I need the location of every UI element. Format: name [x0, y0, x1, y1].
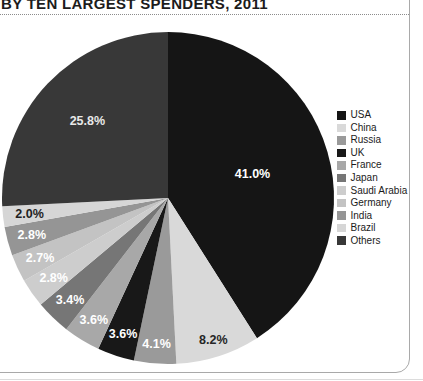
legend-swatch-germany [337, 199, 346, 208]
legend-label-others: Others [351, 236, 381, 246]
legend-swatch-brazil [337, 224, 346, 233]
legend-item-uk: UK [337, 147, 407, 160]
pie-slice-label-france: 3.6% [80, 313, 109, 327]
legend-swatch-china [337, 124, 346, 133]
legend-item-russia: Russia [337, 134, 407, 147]
pie-slice-label-saudi-arabia: 2.8% [39, 271, 68, 285]
legend-label-germany: Germany [351, 198, 392, 208]
legend-label-india: India [351, 211, 373, 221]
pie-slice-label-usa: 41.0% [235, 167, 270, 181]
legend-swatch-uk [337, 149, 346, 158]
legend-swatch-others [337, 236, 346, 245]
legend-label-uk: UK [351, 148, 365, 158]
legend-label-russia: Russia [351, 135, 382, 145]
legend-item-usa: USA [337, 109, 407, 122]
legend-label-france: France [351, 160, 382, 170]
legend-label-saudi-arabia: Saudi Arabia [351, 186, 408, 196]
legend-item-france: France [337, 159, 407, 172]
pie-slice-label-others: 25.8% [70, 114, 105, 128]
legend-item-saudi-arabia: Saudi Arabia [337, 184, 407, 197]
legend-item-japan: Japan [337, 172, 407, 185]
legend-swatch-usa [337, 111, 346, 120]
pie-slice-label-uk: 3.6% [109, 327, 138, 341]
legend-swatch-saudi-arabia [337, 186, 346, 195]
legend-label-japan: Japan [351, 173, 378, 183]
legend-label-usa: USA [351, 110, 372, 120]
legend-label-brazil: Brazil [351, 223, 376, 233]
legend-swatch-india [337, 211, 346, 220]
legend-swatch-france [337, 161, 346, 170]
legend-item-others: Others [337, 234, 407, 247]
legend-item-india: India [337, 209, 407, 222]
pie-slice-label-germany: 2.7% [26, 251, 55, 265]
pie-slice-label-japan: 3.4% [56, 293, 85, 307]
pie-slice-label-brazil: 2.0% [15, 207, 44, 221]
pie-slice-label-russia: 4.1% [142, 337, 171, 351]
chart-legend: USAChinaRussiaUKFranceJapanSaudi ArabiaG… [337, 109, 407, 247]
legend-item-china: China [337, 122, 407, 135]
legend-swatch-russia [337, 136, 346, 145]
legend-label-china: China [351, 123, 377, 133]
pie-slice-label-india: 2.8% [18, 228, 47, 242]
legend-item-germany: Germany [337, 197, 407, 210]
pie-slice-label-china: 8.2% [199, 333, 228, 347]
legend-swatch-japan [337, 174, 346, 183]
legend-item-brazil: Brazil [337, 222, 407, 235]
page-edge-line [0, 379, 423, 380]
